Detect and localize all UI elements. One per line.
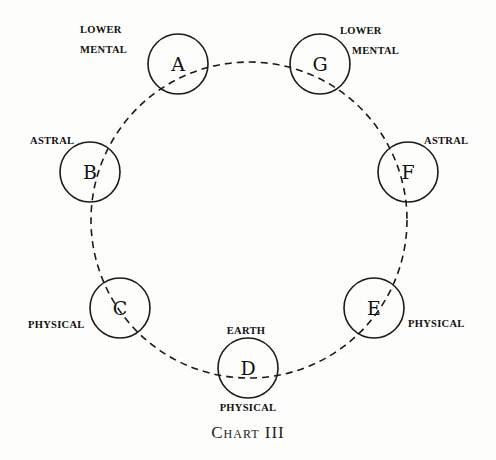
node-c-label: PHYSICAL [28,319,85,330]
node-d-label-below: PHYSICAL [220,402,277,413]
node-d-label-above: EARTH [227,325,265,336]
chart-caption: Chart III [0,423,496,443]
node-f: F [378,142,438,202]
node-g-letter: G [312,53,327,75]
node-g-label-line1: LOWER [340,25,382,36]
node-d-letter: D [240,357,255,379]
node-g-label-line2: MENTAL [352,45,399,56]
node-e-letter: E [367,297,381,319]
chart-iii-diagram: A LOWER MENTAL G LOWER MENTAL B ASTRAL F… [0,0,496,460]
node-b-letter: B [83,161,97,183]
node-e: E [344,278,404,338]
node-e-label: PHYSICAL [408,318,465,329]
node-b: B [60,142,120,202]
node-c: C [90,278,150,338]
node-f-letter: F [401,161,414,183]
node-a-label-line2: MENTAL [80,44,127,55]
node-a: A [148,34,208,94]
node-g: G [290,34,350,94]
node-a-letter: A [170,53,185,75]
node-a-label-line1: LOWER [80,24,122,35]
node-d: D [218,338,278,398]
node-c-letter: C [113,297,128,319]
node-f-label: ASTRAL [424,135,468,146]
node-b-label: ASTRAL [30,135,74,146]
